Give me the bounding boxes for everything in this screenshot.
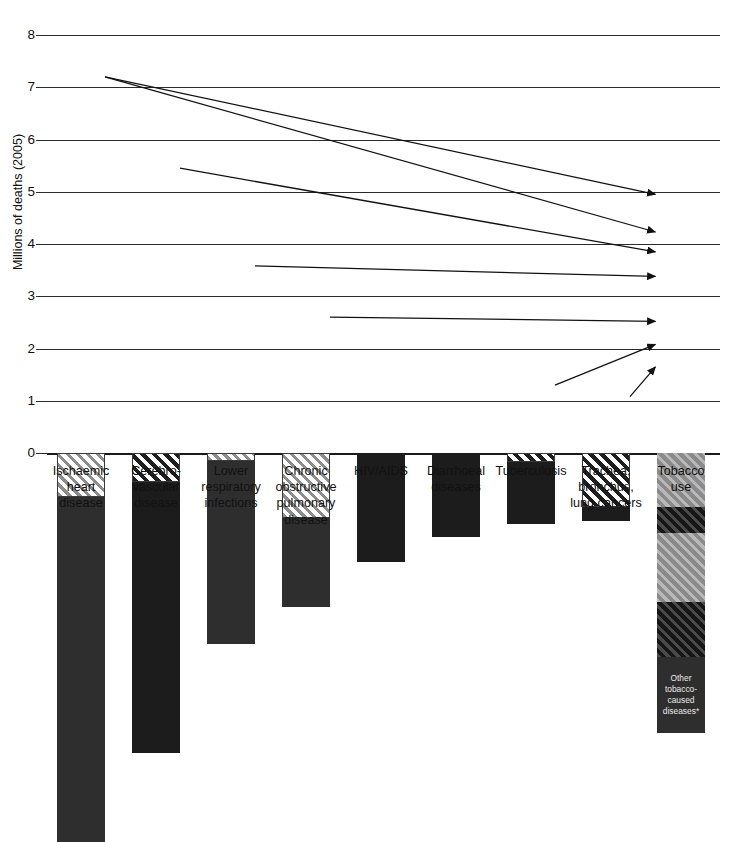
y-axis-tick-label: 2 [11,342,35,356]
y-axis-tick [36,453,47,454]
category-label-line: diseases [408,479,504,495]
bar-segment [57,497,105,842]
y-axis-tick [36,401,47,402]
y-axis-tick [36,244,47,245]
y-axis-tick [36,140,47,141]
bar-segment [507,453,555,462]
y-axis-tick-label: 6 [11,133,35,147]
category-label-line: obstructive [258,479,354,495]
category-label-line: Tobacco [633,463,729,479]
bar-segment [657,533,705,602]
gridline [47,35,720,36]
y-axis-tick-label: 3 [11,289,35,303]
in-bar-note: Other tobacco-caused diseases* [657,673,705,718]
bar-segment: Other tobacco-caused diseases* [657,657,705,733]
y-axis-tick-label: 0 [11,446,35,460]
bar[interactable] [207,262,255,453]
y-axis-tick [36,192,47,193]
bar-segment [657,507,705,533]
y-axis-tick [36,35,47,36]
plot-area: 012345678 Other tobacco-caused diseases* [47,35,720,453]
bar[interactable]: Other tobacco-caused diseases* [657,173,705,453]
category-label-line: lung cancers [558,495,654,511]
y-axis-tick [36,87,47,88]
bar[interactable] [582,385,630,453]
y-axis-tick-label: 8 [11,28,35,42]
y-axis-tick-label: 4 [11,237,35,251]
gridline [47,87,720,88]
category-label-line: disease [258,512,354,528]
bar[interactable] [57,64,105,453]
bar[interactable] [507,382,555,453]
y-axis-tick [36,349,47,350]
bar[interactable] [132,153,180,453]
y-axis-tick-label: 7 [11,80,35,94]
y-axis-tick-label: 5 [11,185,35,199]
bar[interactable] [432,369,480,453]
bar-segment [657,602,705,657]
x-axis-category-label: Tobaccouse [633,463,729,495]
y-axis-tick-label: 1 [11,394,35,408]
gridline [47,140,720,141]
bar[interactable] [357,344,405,453]
category-label-line: pulmonary [258,495,354,511]
bar[interactable] [282,299,330,453]
bar-segment [132,482,180,754]
category-label-line: use [633,479,729,495]
bar-segment [282,518,330,607]
bar-segment [207,453,255,461]
y-axis-tick [36,296,47,297]
